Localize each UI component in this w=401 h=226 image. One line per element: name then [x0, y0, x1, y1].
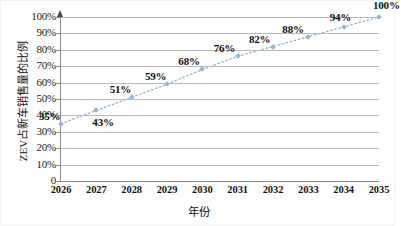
y-axis-tick-label: 20%: [10, 142, 56, 153]
gridline: [61, 66, 379, 67]
y-axis-tick: [56, 165, 61, 166]
y-axis-tick: [56, 148, 61, 149]
data-point-label: 59%: [145, 70, 166, 82]
data-point-label: 88%: [282, 23, 303, 35]
gridline: [61, 148, 379, 149]
data-point-label: 100%: [373, 0, 400, 11]
y-axis-tick-label: 90%: [10, 27, 56, 38]
y-axis-tick: [56, 33, 61, 34]
y-axis-tick-label: 30%: [10, 126, 56, 137]
gridline: [61, 99, 379, 100]
data-point-label: 68%: [178, 55, 199, 67]
y-axis-tick: [56, 17, 61, 18]
y-axis-tick: [56, 83, 61, 84]
up-arrow-icon: [57, 10, 63, 17]
y-axis-tick: [56, 50, 61, 51]
data-point-label: 43%: [92, 116, 113, 128]
gridline: [61, 132, 379, 133]
data-point-label: 94%: [330, 11, 351, 23]
y-axis-tick: [56, 66, 61, 67]
y-axis-tick: [56, 99, 61, 100]
y-axis-tick-label: 100%: [10, 11, 56, 22]
y-axis-tick-label: 80%: [10, 44, 56, 55]
x-axis-line: [61, 181, 379, 182]
plot-area: 35%43%51%59%68%76%82%88%94%100%: [61, 17, 379, 181]
y-axis-tick-label: 70%: [10, 60, 56, 71]
x-axis-tick-label: 2035: [357, 184, 401, 195]
x-axis-title: 年份: [1, 203, 396, 219]
y-axis-tick-label: 60%: [10, 77, 56, 88]
gridline: [61, 165, 379, 166]
y-axis-tick-label: 10%: [10, 159, 56, 170]
gridline: [61, 33, 379, 34]
data-point-label: 76%: [214, 42, 235, 54]
data-point-label: 82%: [249, 33, 270, 45]
y-axis-tick-label: 50%: [10, 93, 56, 104]
y-axis-tick: [56, 181, 61, 182]
data-point-label: 51%: [110, 83, 131, 95]
y-axis-tick: [56, 115, 61, 116]
y-axis-tick: [56, 132, 61, 133]
